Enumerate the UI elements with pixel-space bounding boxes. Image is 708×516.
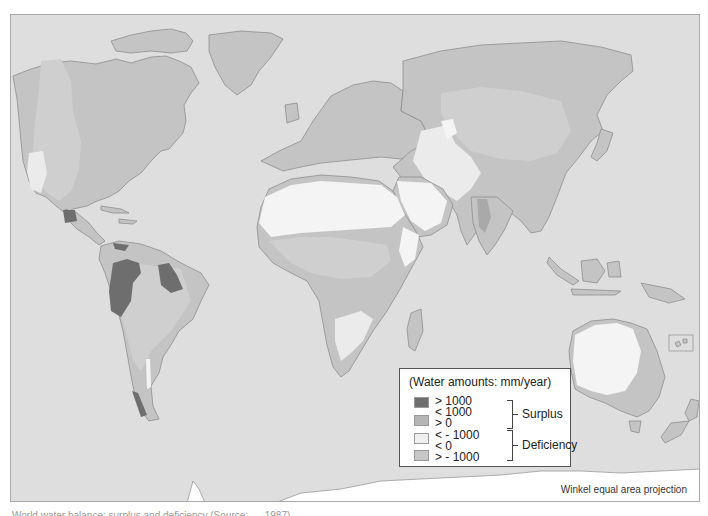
asia <box>393 41 685 303</box>
legend-swatch-deficiency-high <box>414 433 429 444</box>
legend-swatch-deficiency-low <box>414 450 429 461</box>
legend-swatch-surplus-high <box>414 397 429 408</box>
bracket-tick <box>513 445 518 446</box>
world-map: Winkel equal area projection <box>10 14 700 502</box>
legend-swatch-surplus-low <box>414 415 429 426</box>
legend-title: (Water amounts: mm/year) <box>409 375 551 389</box>
north-america <box>13 29 283 245</box>
legend-label: > - 1000 <box>435 451 479 463</box>
bracket-tick <box>513 414 518 415</box>
south-america <box>99 241 209 421</box>
africa <box>257 175 423 377</box>
map-canvas <box>11 15 700 502</box>
figure-caption-cropped: World water balance: surplus and deficie… <box>12 507 290 516</box>
legend-group-surplus: Surplus <box>522 407 563 421</box>
projection-label: Winkel equal area projection <box>561 484 687 495</box>
australia <box>569 319 699 443</box>
map-legend: (Water amounts: mm/year) > 1000 < 1000 >… <box>399 368 571 467</box>
legend-group-deficiency: Deficiency <box>522 438 577 452</box>
